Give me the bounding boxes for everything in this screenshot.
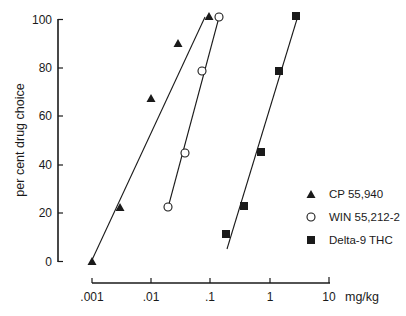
series-cp-55940 <box>88 12 214 265</box>
y-tick-20: 20 <box>39 206 53 220</box>
legend-label-cp: CP 55,940 <box>329 188 383 200</box>
legend-square-icon <box>307 236 315 244</box>
legend-label-win: WIN 55,212-2 <box>329 211 400 223</box>
y-tick-0: 0 <box>45 255 52 269</box>
circle-marker <box>198 67 206 75</box>
series-delta-9-thc <box>222 12 300 249</box>
x-tick-10: 10 <box>322 290 336 304</box>
square-marker <box>240 202 248 210</box>
circle-marker <box>181 149 189 157</box>
legend-triangle-icon <box>307 190 316 198</box>
y-tick-80: 80 <box>39 61 53 75</box>
legend-label-thc: Delta-9 THC <box>329 234 393 246</box>
y-tick-40: 40 <box>39 158 53 172</box>
circle-marker <box>164 203 172 211</box>
x-axis-unit: mg/kg <box>345 290 379 304</box>
square-marker <box>292 12 300 20</box>
legend-circle-icon <box>307 213 315 221</box>
y-tick-100: 100 <box>32 13 52 27</box>
y-axis: 100 80 60 40 20 0 per cent drug choice <box>13 13 63 269</box>
x-tick-1: 1 <box>267 290 274 304</box>
y-axis-title: per cent drug choice <box>13 83 27 196</box>
triangle-marker <box>174 39 183 47</box>
x-axis: .001 .01 .1 1 10 mg/kg <box>80 277 379 304</box>
fit-line-win <box>169 21 218 204</box>
triangle-marker <box>205 12 214 20</box>
x-tick-0.001: .001 <box>80 290 104 304</box>
triangle-marker <box>147 94 156 102</box>
square-marker <box>257 148 265 156</box>
fit-line-thc <box>227 19 297 249</box>
circle-marker <box>215 13 223 21</box>
triangle-marker <box>88 257 97 265</box>
x-tick-0.01: .01 <box>143 290 160 304</box>
chart-canvas: 100 80 60 40 20 0 per cent drug choice .… <box>0 0 406 316</box>
legend: CP 55,940 WIN 55,212-2 Delta-9 THC <box>307 188 400 246</box>
square-marker <box>222 230 230 238</box>
fit-line-cp <box>92 17 205 260</box>
square-marker <box>275 67 283 75</box>
y-tick-60: 60 <box>39 109 53 123</box>
x-tick-0.1: .1 <box>205 290 215 304</box>
